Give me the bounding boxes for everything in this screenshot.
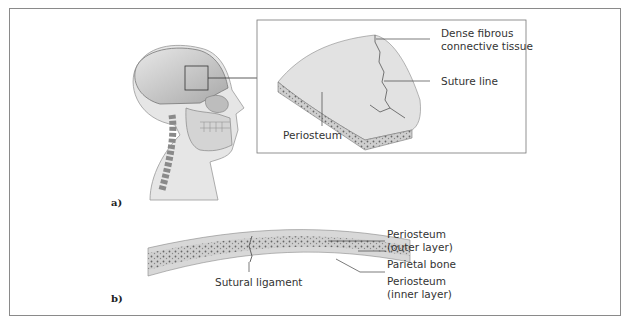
callout-dense-fibrous-line2: connective tissue [441, 40, 533, 53]
callout-periosteum-inner-line1: Periosteum [387, 275, 446, 288]
callout-dense-fibrous-line1: Dense fibrous [441, 27, 513, 40]
callout-periosteum-outer-line2: (outer layer) [387, 241, 453, 254]
panel-a-label: a) [111, 197, 122, 208]
callout-suture-line: Suture line [441, 75, 498, 88]
illustration [0, 0, 633, 324]
head-skull-illustration [133, 45, 257, 200]
callout-periosteum-inner-line2: (inner layer) [387, 288, 452, 301]
callout-sutural-ligament: Sutural ligament [215, 276, 303, 289]
parietal-section-illustration [148, 230, 410, 276]
callout-periosteum-outer-line1: Periosteum [387, 228, 446, 241]
callout-periosteum-a: Periosteum [283, 129, 342, 142]
callout-parietal-bone: Parietal bone [387, 258, 456, 271]
panel-b-label: b) [111, 293, 123, 304]
